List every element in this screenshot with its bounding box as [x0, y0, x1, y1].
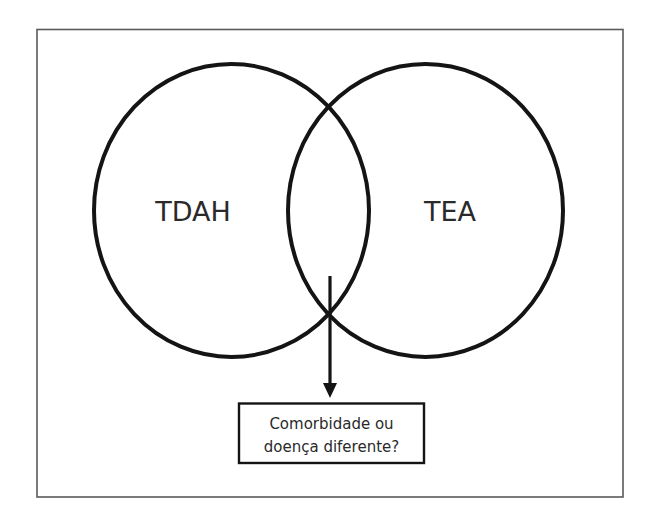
down-arrow-icon	[323, 276, 337, 398]
callout-line-1: Comorbidade ou	[269, 415, 393, 433]
set-label-tdah: TDAH	[154, 196, 231, 227]
set-label-tea: TEA	[423, 196, 477, 227]
venn-diagram: TDAH TEA Comorbidade ou doença diferente…	[0, 0, 645, 526]
callout-line-2: doença diferente?	[264, 438, 399, 456]
